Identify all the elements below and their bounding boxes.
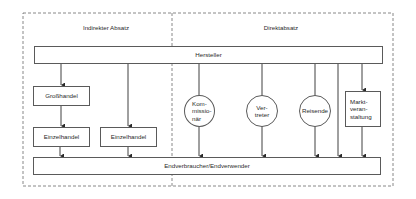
traveling-sales-circle: Reisende	[299, 95, 331, 127]
representative-circle: Ver- treter	[246, 95, 278, 127]
retail-box-1: Einzelhandel	[33, 127, 90, 147]
retail-box-2: Einzelhandel	[100, 127, 157, 147]
section-title-indirect: Indirekter Absatz	[70, 24, 142, 32]
market-event-box: Markt- veran- staltung	[345, 91, 381, 127]
section-title-direct: Direktabsatz	[250, 24, 312, 32]
commission-agent-circle: Kom- missio- när	[184, 95, 215, 127]
consumer-bar: Endverbraucher/Endverwender	[33, 157, 381, 175]
wholesale-box: Großhandel	[33, 86, 90, 106]
producer-bar: Hersteller	[34, 46, 383, 64]
